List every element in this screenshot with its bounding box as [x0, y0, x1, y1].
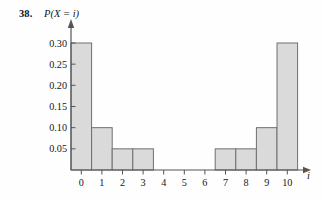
x-tick-label-0: 0: [79, 177, 84, 188]
x-tick-label-1: 1: [99, 177, 104, 188]
x-tick-label-5: 5: [182, 177, 187, 188]
bar-9: [256, 128, 277, 170]
x-axis-arrow: [303, 167, 311, 173]
bars-group: [71, 43, 298, 170]
x-tick-label-2: 2: [120, 177, 125, 188]
bar-3: [133, 149, 154, 170]
y-tick-label-0.10: 0.10: [49, 122, 67, 133]
bar-10: [277, 43, 298, 170]
bar-1: [92, 128, 113, 170]
x-tick-label-3: 3: [141, 177, 146, 188]
x-tick-label-9: 9: [264, 177, 269, 188]
figure-container: 38. P(X = i) i 0.050.100.150.200.250.300…: [0, 0, 322, 201]
x-tick-label-4: 4: [161, 177, 166, 188]
x-tick-label-6: 6: [202, 177, 207, 188]
y-tick-label-0.05: 0.05: [49, 143, 67, 154]
bar-2: [112, 149, 133, 170]
y-tick-label-0.25: 0.25: [49, 59, 67, 70]
x-tick-label-8: 8: [244, 177, 249, 188]
y-tick-label-0.20: 0.20: [49, 80, 67, 91]
bar-chart-plot: 0.050.100.150.200.250.30012345678910: [0, 0, 322, 201]
y-axis-arrow: [68, 19, 74, 28]
x-tick-label-7: 7: [223, 177, 228, 188]
y-tick-label-0.30: 0.30: [49, 38, 67, 49]
y-tick-label-0.15: 0.15: [49, 101, 67, 112]
bar-8: [236, 149, 257, 170]
bar-7: [215, 149, 236, 170]
x-tick-label-10: 10: [282, 177, 292, 188]
